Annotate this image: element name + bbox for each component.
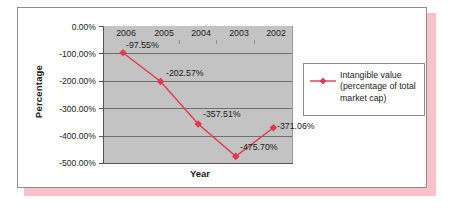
- legend-entry-label-line-1: Intangible value: [340, 70, 422, 81]
- legend-entry-label-line-3: market cap): [340, 93, 422, 104]
- y-tick-label-5: -500.00%: [30, 158, 96, 168]
- data-label-2002: -371.06%: [277, 121, 315, 131]
- data-label-2004: -357.51%: [203, 109, 241, 119]
- x-axis-line: [103, 163, 293, 164]
- y-tick-label-3: -300.00%: [30, 104, 96, 114]
- legend-entry-label-line-2: (percentage of total: [340, 81, 422, 92]
- figure-card: Percentage Year 0.00% -100.00% -200.00% …: [17, 7, 427, 188]
- legend-entry-label: Intangible value (percentage of total ma…: [340, 70, 422, 104]
- y-axis-title: Percentage: [33, 50, 44, 134]
- data-label-2005: -202.57%: [166, 68, 204, 78]
- y-tick-label-1: -100.00%: [30, 49, 96, 59]
- y-tick-label-4: -400.00%: [30, 131, 96, 141]
- legend: Intangible value (percentage of total ma…: [303, 63, 425, 116]
- y-tick-label-0: 0.00%: [30, 22, 96, 32]
- legend-marker-icon: [310, 76, 336, 86]
- data-label-2006: -97.55%: [126, 40, 159, 50]
- data-label-2003: -475.70%: [240, 142, 278, 152]
- chart-figure: Percentage Year 0.00% -100.00% -200.00% …: [0, 0, 467, 208]
- x-axis-title: Year: [104, 168, 296, 179]
- y-tick-label-2: -200.00%: [30, 76, 96, 86]
